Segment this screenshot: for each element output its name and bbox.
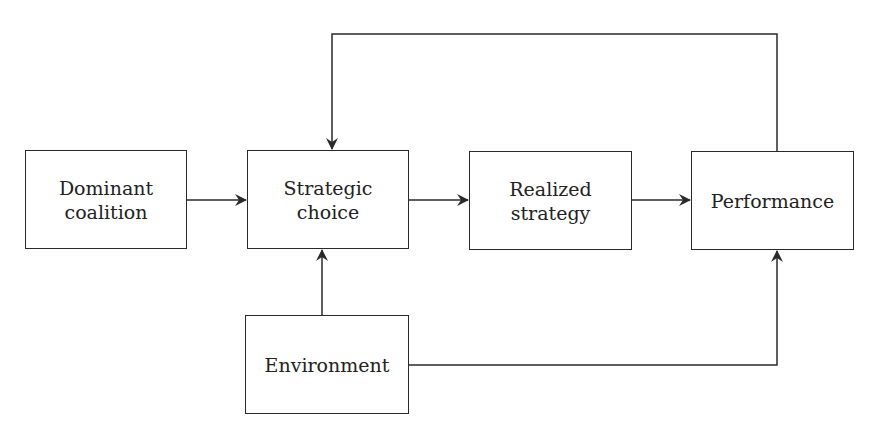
node-label: Dominant coalition [59, 176, 153, 224]
node-performance: Performance [691, 151, 854, 250]
node-label: Realized strategy [509, 177, 591, 225]
node-dominant-coalition: Dominant coalition [25, 150, 187, 249]
node-label: Performance [711, 189, 834, 213]
node-label: Strategic choice [284, 176, 373, 224]
edge-environment-to-performance [409, 251, 777, 365]
edge-performance-feedback-to-strategic [332, 34, 777, 151]
node-strategic-choice: Strategic choice [247, 150, 409, 249]
node-label: Environment [265, 353, 390, 377]
node-environment: Environment [245, 315, 409, 414]
diagram-canvas: Dominant coalition Strategic choice Real… [0, 0, 876, 435]
node-realized-strategy: Realized strategy [469, 151, 632, 250]
